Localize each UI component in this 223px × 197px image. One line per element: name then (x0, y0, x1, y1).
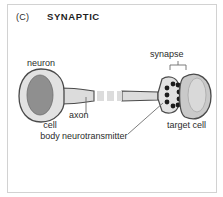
figure-panel-synaptic: (C) SYNAPTIC (0, 0, 223, 197)
axon-proximal-segment (62, 88, 94, 104)
neuron-cell-body (19, 69, 64, 122)
axon-structure (62, 88, 158, 104)
target-cell-nucleus (188, 78, 206, 112)
vesicle (165, 93, 170, 98)
axon-distal-segment (122, 91, 158, 101)
axon-terminal (158, 77, 181, 113)
target-cell (180, 74, 211, 119)
vesicle (165, 86, 170, 91)
neurotransmitter-leader (128, 103, 163, 134)
neuron-nucleus (27, 75, 53, 115)
synapse-bracket (170, 65, 186, 70)
label-axon: axon (69, 110, 89, 121)
axon-break-dashes (97, 91, 122, 101)
label-neuron: neuron (27, 58, 55, 69)
label-cell-body-line1: cell (43, 120, 57, 130)
synaptic-signaling-diagram (8, 5, 216, 192)
label-neurotransmitter: neurotransmitter (62, 131, 128, 142)
vesicle (171, 104, 176, 109)
label-synapse: synapse (150, 49, 184, 60)
label-cell-body-line2: body (40, 131, 60, 141)
vesicle (171, 82, 176, 87)
vesicle (165, 100, 170, 105)
label-target-cell: target cell (167, 120, 206, 131)
